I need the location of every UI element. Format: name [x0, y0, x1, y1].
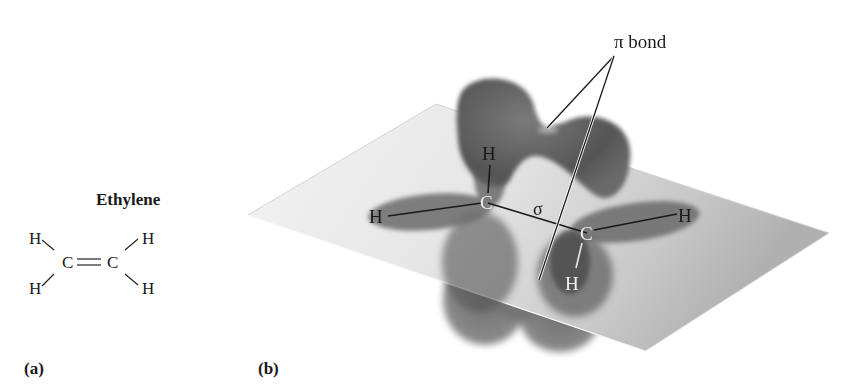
panel-label-b: (b)	[258, 359, 279, 379]
structural-formula: H H C C H H	[15, 228, 175, 300]
atom-c: C	[62, 254, 73, 271]
atom-h: H	[29, 280, 41, 297]
atom-h: H	[29, 230, 41, 247]
atom-h-left: H	[369, 206, 383, 227]
atom-c: C	[107, 254, 118, 271]
sigma-label: σ	[533, 199, 543, 219]
molecule-name: Ethylene	[96, 190, 160, 210]
atom-h-bottom: H	[565, 273, 579, 294]
atom-c1: C	[480, 192, 493, 213]
panel-label-a: (a)	[24, 359, 44, 379]
atom-h-right: H	[678, 205, 692, 226]
atom-h: H	[142, 280, 154, 297]
orbital-illustration: H H C σ C H H π bond	[230, 0, 846, 360]
atom-c2: C	[580, 223, 593, 244]
atom-h: H	[142, 230, 154, 247]
orbital-diagram: H H C σ C H H π bond	[230, 0, 846, 360]
atom-h-top: H	[482, 143, 496, 164]
pi-bond-label: π bond	[614, 31, 667, 52]
